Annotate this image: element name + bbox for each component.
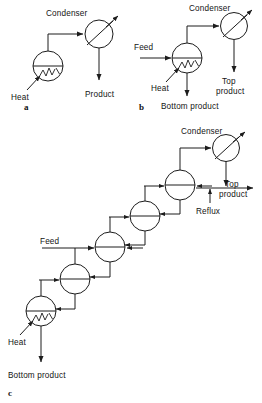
panel-c-condenser-label: Condenser: [181, 127, 223, 136]
panel-b-top-product-label-line1: Top: [222, 77, 236, 86]
panel-a-product-label: Product: [85, 90, 115, 99]
panel-a-caption: a: [24, 102, 29, 112]
panel-b-condenser: [221, 10, 253, 40]
panel-c-stage3-downcomer: [90, 262, 110, 277]
panel-c-heat-stream: [20, 321, 33, 335]
panel-b: Condenser Feed Heat Top product Bottom p…: [134, 4, 252, 112]
panel-c-stage5-downcomer: [160, 200, 180, 214]
panel-b-bottom-product-label: Bottom product: [161, 102, 219, 111]
panel-b-condenser-label: Condenser: [189, 4, 231, 13]
panel-b-caption: b: [139, 102, 144, 112]
panel-a: Condenser Heat Product a: [11, 9, 118, 112]
panel-c-stage4-downcomer: [125, 231, 145, 245]
figure-canvas: Condenser Heat Product a: [0, 0, 262, 403]
panel-c-stage-2: [60, 264, 90, 294]
panel-b-heat-stream: [166, 68, 179, 82]
panel-c-reflux-label: Reflux: [196, 207, 220, 216]
panel-c-top-product-label-line1: Top: [225, 180, 239, 189]
panel-b-feed-label: Feed: [134, 43, 154, 52]
panel-c-stage-4: [130, 201, 160, 231]
panel-c-feed-label: Feed: [40, 237, 60, 246]
panel-c-condenser: [213, 132, 246, 162]
panel-c-top-product-label-line2: product: [219, 190, 248, 199]
panel-a-reboiler: [33, 51, 63, 81]
panel-b-heat-label: Heat: [151, 84, 169, 93]
panel-a-condenser: [85, 16, 118, 48]
panel-b-top-product-label-line2: product: [216, 87, 245, 96]
panel-c-caption: c: [8, 388, 12, 398]
panel-c-vapour-to-condenser: [180, 148, 211, 170]
distillation-diagram: Condenser Heat Product a: [0, 0, 262, 403]
panel-b-vapour-line: [187, 26, 219, 43]
panel-c: Condenser Top product Reflux: [8, 127, 253, 398]
panel-c-stage-3-feed-stage: [95, 232, 125, 262]
panel-a-heat-stream: [27, 76, 40, 90]
panel-a-vapour-line: [48, 34, 83, 51]
panel-a-condenser-label: Condenser: [46, 9, 88, 18]
panel-c-stage-1-reboiler: [26, 296, 56, 326]
panel-c-stage-5: [165, 170, 195, 200]
panel-a-heat-label: Heat: [11, 93, 29, 102]
panel-c-heat-label: Heat: [8, 338, 26, 347]
panel-c-stage2-downcomer: [56, 294, 75, 309]
panel-b-reboiler-stage: [172, 43, 202, 73]
panel-c-bottom-product-label: Bottom product: [8, 371, 66, 380]
